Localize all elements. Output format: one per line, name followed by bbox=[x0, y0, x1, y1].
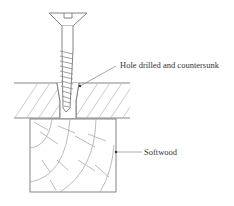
screw-head bbox=[49, 13, 87, 26]
countersunk-screw bbox=[49, 13, 87, 112]
screw-joint-diagram: Hole drilled and countersunk Softwood bbox=[0, 0, 234, 206]
softwood-label: Softwood bbox=[144, 147, 178, 157]
softwood-callout: Softwood bbox=[115, 147, 178, 157]
hole-label: Hole drilled and countersunk bbox=[120, 60, 220, 70]
top-board bbox=[10, 80, 148, 125]
softwood-block bbox=[30, 119, 116, 192]
